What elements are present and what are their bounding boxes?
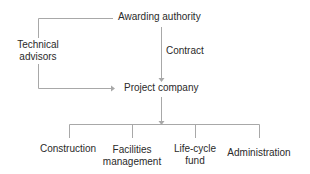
- authority-advisors-line: [39, 19, 114, 39]
- child-label-line2: fund: [174, 155, 216, 167]
- contract-label: Contract: [166, 45, 204, 57]
- technical-advisors-line2: advisors: [17, 51, 59, 63]
- child-node-facilities-management: Facilities management: [103, 144, 161, 168]
- child-node-life-cycle-fund: Life-cycle fund: [174, 143, 216, 167]
- technical-advisors-line1: Technical: [17, 39, 59, 51]
- child-node-administration: Administration: [227, 147, 290, 159]
- child-label-line1: Construction: [40, 143, 96, 155]
- technical-advisors-node: Technical advisors: [17, 39, 59, 63]
- child-node-construction: Construction: [40, 143, 96, 155]
- project-company-node: Project company: [124, 82, 198, 94]
- awarding-authority-node: Awarding authority: [118, 11, 201, 23]
- child-label-line1: Administration: [227, 147, 290, 159]
- child-label-line1: Facilities: [103, 144, 161, 156]
- advisors-arrowhead: [111, 86, 115, 92]
- child-label-line2: management: [103, 156, 161, 168]
- child-label-line1: Life-cycle: [174, 143, 216, 155]
- advisors-project-line: [39, 64, 112, 89]
